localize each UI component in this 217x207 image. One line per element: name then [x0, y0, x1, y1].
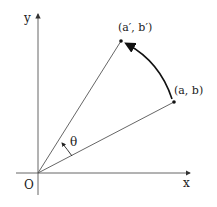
y-axis-label: y [23, 11, 31, 25]
original-point-dot [172, 100, 176, 104]
angle-label: θ [70, 135, 77, 149]
original-point-label: (a, b) [174, 84, 203, 97]
rotation-arc [127, 44, 172, 99]
ray-to-rotated-point [38, 41, 121, 173]
rotated-point-label: (a′, b′) [118, 21, 152, 34]
x-axis-label: x [183, 176, 190, 190]
rotation-diagram: y x O (a′, b′) (a, b) θ [0, 0, 217, 207]
rotated-point-dot [119, 39, 123, 43]
origin-label: O [24, 178, 34, 192]
ray-to-original-point [38, 102, 174, 173]
